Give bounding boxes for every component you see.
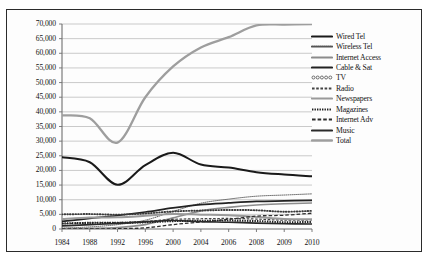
y-tick-label: 10,000 xyxy=(12,195,56,204)
legend-label: Internet Access xyxy=(336,53,381,62)
legend-item[interactable]: Radio xyxy=(311,83,417,93)
y-tick-label: 15,000 xyxy=(12,180,56,189)
y-tick-label: 20,000 xyxy=(12,165,56,174)
series-line xyxy=(62,24,312,143)
y-tick-label: 60,000 xyxy=(12,48,56,57)
legend-item[interactable]: Total xyxy=(311,135,417,145)
y-tick-label: 70,000 xyxy=(12,19,56,28)
legend-item[interactable]: Magazines xyxy=(311,104,417,114)
x-tick-label: 2010 xyxy=(292,238,332,247)
legend-marker-icon xyxy=(311,115,333,124)
legend-item[interactable]: Wireless Tel xyxy=(311,41,417,51)
chart-legend: Wired TelWireless TelInternet AccessCabl… xyxy=(311,31,417,146)
legend-label: Total xyxy=(336,136,351,145)
legend-label: Magazines xyxy=(336,105,368,114)
legend-marker-icon xyxy=(311,42,333,51)
series-line xyxy=(62,153,312,185)
legend-item[interactable]: Music xyxy=(311,125,417,135)
y-tick-label: 50,000 xyxy=(12,78,56,87)
legend-label: Cable & Sat xyxy=(336,63,372,72)
gridlines xyxy=(62,24,312,214)
legend-label: Newspapers xyxy=(336,94,372,103)
legend-marker-icon xyxy=(311,105,333,114)
legend-label: Internet Adv xyxy=(336,115,373,124)
y-tick-label: 0 xyxy=(12,224,56,233)
y-tick-label: 25,000 xyxy=(12,151,56,160)
legend-label: Radio xyxy=(336,84,354,93)
legend-label: Wired Tel xyxy=(336,32,365,41)
legend-marker-icon xyxy=(311,136,333,145)
y-tick-label: 35,000 xyxy=(12,122,56,131)
legend-label: TV xyxy=(336,73,346,82)
legend-label: Wireless Tel xyxy=(336,42,372,51)
legend-marker-icon xyxy=(311,94,333,103)
y-tick-label: 40,000 xyxy=(12,107,56,116)
y-tick-label: 30,000 xyxy=(12,136,56,145)
y-tick-label: 65,000 xyxy=(12,34,56,43)
legend-item[interactable]: Newspapers xyxy=(311,94,417,104)
legend-item[interactable]: Wired Tel xyxy=(311,31,417,41)
y-tick-label: 55,000 xyxy=(12,63,56,72)
legend-marker-icon xyxy=(311,63,333,72)
y-tick-label: 5,000 xyxy=(12,209,56,218)
legend-marker-icon xyxy=(311,32,333,41)
legend-item[interactable]: Internet Access xyxy=(311,52,417,62)
legend-item[interactable]: Cable & Sat xyxy=(311,62,417,72)
legend-marker-icon xyxy=(311,84,333,93)
legend-marker-icon xyxy=(311,53,333,62)
y-tick-label: 45,000 xyxy=(12,92,56,101)
legend-item[interactable]: Internet Adv xyxy=(311,115,417,125)
legend-marker-icon xyxy=(311,73,333,82)
legend-item[interactable]: TV xyxy=(311,73,417,83)
legend-marker-icon xyxy=(311,126,333,135)
legend-label: Music xyxy=(336,126,354,135)
